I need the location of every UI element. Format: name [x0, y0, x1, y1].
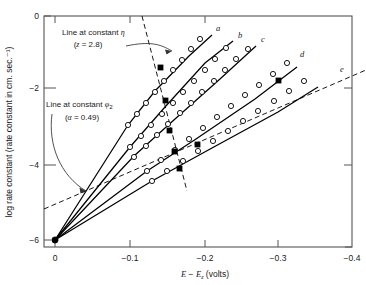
data-point	[170, 100, 175, 105]
data-point	[125, 122, 130, 127]
data-point	[228, 103, 233, 108]
data-point	[284, 60, 289, 65]
intersection-marker	[163, 98, 168, 103]
data-point	[212, 56, 217, 61]
data-point	[191, 78, 196, 83]
y-axis-title: log rate constant (rate constant in cm. …	[4, 46, 14, 217]
axes-box	[44, 16, 352, 247]
data-point	[161, 78, 166, 83]
data-point	[177, 110, 182, 115]
intersection-marker	[158, 65, 163, 70]
data-point	[195, 148, 200, 153]
data-point	[222, 67, 227, 72]
data-point	[180, 158, 185, 163]
ytick-label-2: −4	[29, 160, 39, 170]
data-point	[233, 56, 238, 61]
series-label-e: e	[340, 64, 344, 74]
ytick-label-3: −6	[29, 235, 39, 245]
plot-frame	[44, 16, 352, 247]
xtick-label-2: −0.2	[197, 253, 214, 263]
figure-container: 0 −0.1 −0.2 −0.3 −0.4 0 −2 −4 −6 E − Ez …	[0, 0, 366, 285]
data-point	[165, 121, 170, 126]
data-point	[180, 89, 185, 94]
xtick-label-0: 0	[53, 253, 58, 263]
data-point	[159, 111, 164, 116]
intersection-marker	[195, 142, 200, 147]
x-tick-labels: 0 −0.1 −0.2 −0.3 −0.4	[53, 253, 361, 263]
xtick-label-4: −0.4	[344, 253, 361, 263]
xtick-label-1: −0.1	[122, 253, 139, 263]
data-point	[134, 111, 139, 116]
data-point	[256, 82, 261, 87]
intersection-marker	[276, 78, 281, 83]
data-point	[138, 133, 143, 138]
data-point	[202, 67, 207, 72]
ytick-label-0: 0	[34, 11, 39, 21]
intersection-marker	[167, 128, 172, 133]
data-point	[223, 45, 228, 50]
y-tick-labels: 0 −2 −4 −6	[29, 11, 39, 245]
data-point	[270, 71, 275, 76]
data-point	[240, 118, 245, 123]
series-label-c: c	[261, 34, 265, 44]
data-point	[143, 100, 148, 105]
data-point	[148, 122, 153, 127]
data-point	[188, 100, 193, 105]
data-point	[144, 168, 149, 173]
x-axis-title: E − Ez (volts)	[180, 269, 229, 280]
data-point	[143, 143, 148, 148]
data-point	[186, 136, 191, 141]
ytick-label-1: −2	[29, 83, 39, 93]
data-point	[158, 157, 163, 162]
data-point	[210, 138, 215, 143]
data-point	[152, 89, 157, 94]
data-point	[154, 132, 159, 137]
data-point	[179, 57, 184, 62]
annotation-eta-line1: Line at constant η	[62, 28, 125, 37]
data-point	[255, 108, 260, 113]
data-point	[242, 92, 247, 97]
data-point	[301, 78, 306, 83]
data-point	[286, 88, 291, 93]
data-point	[200, 125, 205, 130]
data-point	[225, 128, 230, 133]
series-label-b: b	[238, 30, 242, 40]
annotation-phi2-line1: Line at constant φ2	[46, 100, 113, 110]
data-point	[131, 154, 136, 159]
data-point	[188, 46, 193, 51]
data-point	[164, 168, 169, 173]
data-point	[127, 144, 132, 149]
data-point	[245, 46, 250, 51]
scientific-plot: 0 −0.1 −0.2 −0.3 −0.4 0 −2 −4 −6 E − Ez …	[0, 0, 366, 285]
data-point	[199, 89, 204, 94]
data-point	[271, 98, 276, 103]
xtick-label-3: −0.3	[270, 253, 287, 263]
series-label-a: a	[216, 23, 220, 33]
annotation-eta-line2: (z = 2.8)	[74, 40, 103, 49]
intersection-marker	[177, 166, 182, 171]
data-point	[170, 67, 175, 72]
data-point	[211, 78, 216, 83]
data-point	[214, 114, 219, 119]
origin-marker	[52, 237, 58, 243]
data-point	[149, 178, 154, 183]
annotation-phi2-line2: (α = 0.49)	[65, 113, 100, 122]
data-point	[197, 36, 202, 41]
intersection-marker	[172, 149, 177, 154]
